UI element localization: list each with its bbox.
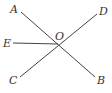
ray-oe: [13, 43, 58, 44]
label-d: D: [98, 5, 108, 18]
label-o: O: [55, 30, 64, 43]
label-b: B: [96, 74, 105, 87]
line-cd: [20, 14, 97, 77]
label-c: C: [9, 74, 18, 87]
label-a: A: [9, 3, 18, 16]
geometry-diagram: A D E O C B: [0, 0, 112, 93]
label-e: E: [2, 37, 11, 50]
